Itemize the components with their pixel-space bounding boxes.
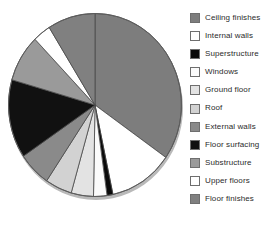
legend-swatch-icon	[190, 85, 200, 95]
legend-item[interactable]: Ceiling finishes	[190, 9, 266, 27]
legend-item-label: Floor finishes	[205, 190, 254, 208]
legend-item[interactable]: Floor finishes	[190, 190, 266, 208]
legend-item[interactable]: Substructure	[190, 154, 266, 172]
legend-swatch-icon	[190, 13, 200, 23]
legend-item-label: Ground floor	[205, 81, 251, 99]
chart-legend: Ceiling finishesInternal wallsSuperstruc…	[188, 0, 266, 208]
legend-item-label: Substructure	[205, 154, 252, 172]
pie-chart-svg	[4, 8, 186, 203]
legend-swatch-icon	[190, 158, 200, 168]
legend-item-label: Floor surfacing	[205, 136, 259, 154]
legend-item[interactable]: Roof	[190, 99, 266, 117]
legend-item-label: Roof	[205, 99, 222, 117]
legend-swatch-icon	[190, 49, 200, 59]
legend-item[interactable]: Ground floor	[190, 81, 266, 99]
legend-swatch-icon	[190, 104, 200, 114]
legend-swatch-icon	[190, 140, 200, 150]
legend-item[interactable]: Internal walls	[190, 27, 266, 45]
legend-item[interactable]: External walls	[190, 118, 266, 136]
pie-chart-figure: Ceiling finishesInternal wallsSuperstruc…	[0, 0, 266, 230]
pie-slices	[8, 14, 181, 197]
legend-item[interactable]: Windows	[190, 63, 266, 81]
pie-plot-area	[0, 0, 188, 230]
legend-item-label: Internal walls	[205, 27, 253, 45]
legend-item[interactable]: Superstructure	[190, 45, 266, 63]
legend-item-label: Windows	[205, 63, 238, 81]
legend-item[interactable]: Floor surfacing	[190, 136, 266, 154]
legend-item-label: External walls	[205, 118, 256, 136]
legend-swatch-icon	[190, 67, 200, 77]
legend-swatch-icon	[190, 176, 200, 186]
legend-item-label: Upper floors	[205, 172, 250, 190]
legend-item-label: Ceiling finishes	[205, 9, 260, 27]
legend-swatch-icon	[190, 194, 200, 204]
legend-item[interactable]: Upper floors	[190, 172, 266, 190]
legend-item-label: Superstructure	[205, 45, 259, 63]
legend-swatch-icon	[190, 122, 200, 132]
legend-swatch-icon	[190, 31, 200, 41]
